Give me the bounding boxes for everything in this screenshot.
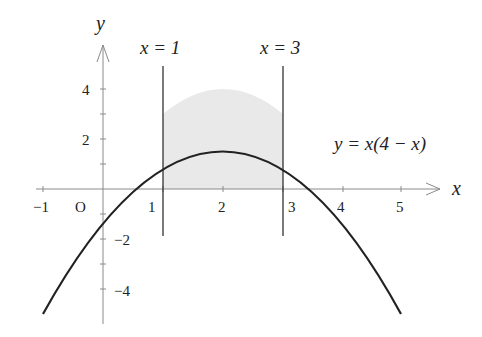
x-tick-label: 4 xyxy=(337,199,345,215)
x-tick-label: −1 xyxy=(33,199,49,215)
curve-equation-label: y = x(4 − x) xyxy=(332,133,426,155)
label-x-equals-1: x = 1 xyxy=(139,37,180,58)
x-axis-label: x xyxy=(451,177,461,199)
y-tick-label: −4 xyxy=(114,283,130,299)
label-x-equals-3: x = 3 xyxy=(259,37,300,58)
y-tick-label: −2 xyxy=(114,232,130,248)
y-tick-label: 2 xyxy=(82,132,90,148)
y-axis-label: y xyxy=(94,12,105,35)
x-tick-label: 1 xyxy=(148,199,156,215)
x-tick-label: 3 xyxy=(288,199,296,215)
shaded-area xyxy=(163,89,283,189)
chart-canvas: y x O −1 1 2 3 4 5 4 2 −2 −4 x = 1 x = 3… xyxy=(0,0,482,337)
origin-label: O xyxy=(75,199,86,215)
y-tick-label: 4 xyxy=(82,82,90,98)
x-tick-label: 2 xyxy=(218,199,226,215)
x-tick-label: 5 xyxy=(396,199,404,215)
y-axis xyxy=(97,45,109,324)
